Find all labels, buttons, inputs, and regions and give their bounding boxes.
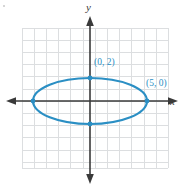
point-marker-right: [145, 99, 150, 104]
y-axis-label: y: [86, 2, 91, 13]
point-label-right-vertex: (5, 0): [146, 79, 167, 89]
coordinate-plane-svg: [0, 0, 184, 185]
point-label-top-vertex: (0, 2): [94, 58, 115, 68]
y-axis-arrow-down: [86, 174, 94, 184]
point-marker-left: [31, 99, 36, 104]
point-marker-top: [88, 76, 93, 81]
x-axis-arrow-left: [6, 97, 16, 105]
point-marker-bottom: [88, 122, 93, 127]
ellipse-figure: y x (0, 2) (5, 0): [0, 0, 184, 185]
x-axis-label: x: [170, 96, 175, 107]
y-axis-arrow-up: [86, 16, 94, 26]
